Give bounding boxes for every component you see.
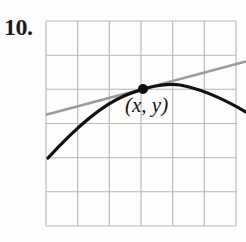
point-coordinate-label: (x, y): [125, 93, 168, 117]
grid-lines: [46, 21, 236, 226]
graph-figure: [0, 0, 246, 242]
figure-page: 10. (x, y): [0, 0, 246, 242]
